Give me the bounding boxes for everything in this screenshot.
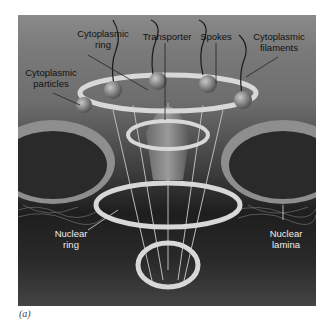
nuclear-pore-illustration [18, 15, 316, 306]
nuclear-pore-figure: Cytoplasmic ring Transporter Spokes Cyto… [18, 15, 316, 306]
transporter-shape [146, 107, 190, 181]
label-cytoplasmic-ring: Cytoplasmic ring [73, 28, 133, 50]
figure-caption: (a) [19, 308, 31, 319]
label-nuclear-lamina: Nuclear lamina [262, 228, 310, 250]
label-cytoplasmic-particles: Cytoplasmic particles [22, 67, 80, 89]
label-cytoplasmic-filaments: Cytoplasmic filaments [246, 31, 312, 53]
label-nuclear-ring: Nuclear ring [46, 228, 96, 250]
nuclear-lamina-mesh [18, 205, 316, 224]
label-transporter: Transporter [139, 31, 195, 42]
label-spokes: Spokes [198, 31, 234, 42]
